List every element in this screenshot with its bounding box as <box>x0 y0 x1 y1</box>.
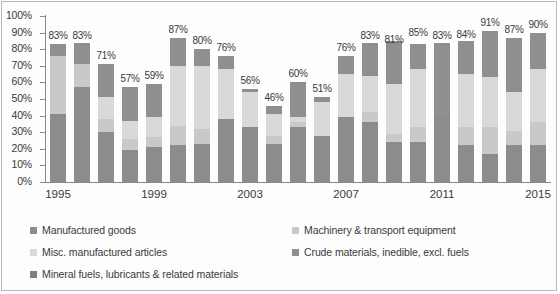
bar-segment[interactable] <box>122 139 138 151</box>
bar-stack[interactable] <box>50 44 66 182</box>
legend-item[interactable]: Crude materials, inedible, excl. fuels <box>292 246 469 258</box>
bar-segment[interactable] <box>482 77 498 127</box>
bar-segment[interactable] <box>194 144 210 182</box>
bar-segment[interactable] <box>338 117 354 182</box>
bar-segment[interactable] <box>362 112 378 122</box>
bar-stack[interactable] <box>242 89 258 182</box>
bar-segment[interactable] <box>362 76 378 113</box>
bar-stack[interactable] <box>386 41 402 182</box>
bar-stack[interactable] <box>410 44 426 182</box>
bar-segment[interactable] <box>170 38 186 66</box>
bar-segment[interactable] <box>506 92 522 130</box>
bar-stack[interactable] <box>122 87 138 182</box>
bar-stack[interactable] <box>170 38 186 182</box>
bar-segment[interactable] <box>50 44 66 56</box>
bar-segment[interactable] <box>458 41 474 74</box>
bar-stack[interactable] <box>506 38 522 182</box>
bar-segment[interactable] <box>50 114 66 182</box>
bar-segment[interactable] <box>338 74 354 117</box>
bar-segment[interactable] <box>266 114 282 136</box>
bar-segment[interactable] <box>482 154 498 182</box>
bar-stack[interactable] <box>338 56 354 182</box>
bar-stack[interactable] <box>218 56 234 182</box>
bar-segment[interactable] <box>194 49 210 66</box>
bar-segment[interactable] <box>242 127 258 182</box>
bar-segment[interactable] <box>482 127 498 154</box>
bar-segment[interactable] <box>458 127 474 145</box>
bar-segment[interactable] <box>146 147 162 182</box>
bar-segment[interactable] <box>194 129 210 144</box>
bar-segment[interactable] <box>98 64 114 97</box>
bar-segment[interactable] <box>266 106 282 114</box>
bar-segment[interactable] <box>194 66 210 129</box>
bar-segment[interactable] <box>434 117 450 182</box>
legend-item[interactable]: Mineral fuels, lubricants & related mate… <box>30 268 238 280</box>
bar-segment[interactable] <box>122 150 138 182</box>
bar-segment[interactable] <box>218 56 234 69</box>
bar-segment[interactable] <box>362 43 378 76</box>
bar-stack[interactable] <box>98 64 114 182</box>
bar-stack[interactable] <box>530 33 546 182</box>
bar-segment[interactable] <box>74 43 90 65</box>
bar-segment[interactable] <box>170 145 186 182</box>
bar-segment[interactable] <box>290 82 306 117</box>
bar-segment[interactable] <box>458 74 474 127</box>
bar-segment[interactable] <box>530 33 546 70</box>
bar-segment[interactable] <box>506 145 522 182</box>
bar-segment[interactable] <box>146 137 162 147</box>
bar-segment[interactable] <box>386 41 402 84</box>
bar-stack[interactable] <box>194 49 210 182</box>
bar-segment[interactable] <box>386 134 402 142</box>
bar-segment[interactable] <box>362 122 378 182</box>
bar-segment[interactable] <box>458 145 474 182</box>
bar-segment[interactable] <box>410 142 426 182</box>
bar-segment[interactable] <box>386 142 402 182</box>
bar-segment[interactable] <box>146 84 162 117</box>
bar-stack[interactable] <box>314 97 330 182</box>
bar-stack[interactable] <box>146 84 162 182</box>
bar-segment[interactable] <box>122 121 138 139</box>
bar-segment[interactable] <box>506 131 522 146</box>
bar-segment[interactable] <box>434 43 450 118</box>
bar-segment[interactable] <box>50 56 66 114</box>
bar-segment[interactable] <box>290 127 306 182</box>
plot-area <box>46 16 550 182</box>
bar-segment[interactable] <box>338 56 354 74</box>
bar-segment[interactable] <box>530 145 546 182</box>
bar-value-label: 85% <box>405 27 431 38</box>
bar-segment[interactable] <box>482 31 498 77</box>
legend-item[interactable]: Manufactured goods <box>30 224 136 236</box>
bar-stack[interactable] <box>458 41 474 182</box>
legend-item[interactable]: Machinery & transport equipment <box>292 224 456 236</box>
bar-stack[interactable] <box>434 43 450 182</box>
bar-segment[interactable] <box>410 69 426 127</box>
bar-stack[interactable] <box>482 31 498 182</box>
bar-stack[interactable] <box>362 43 378 182</box>
bar-segment[interactable] <box>530 69 546 122</box>
bar-segment[interactable] <box>266 136 282 144</box>
bar-segment[interactable] <box>242 92 258 127</box>
bar-segment[interactable] <box>506 38 522 93</box>
bar-stack[interactable] <box>290 82 306 182</box>
bar-segment[interactable] <box>266 144 282 182</box>
bar-stack[interactable] <box>74 43 90 182</box>
bar-segment[interactable] <box>98 119 114 132</box>
bar-segment[interactable] <box>170 126 186 146</box>
bar-segment[interactable] <box>74 64 90 87</box>
bar-segment[interactable] <box>146 117 162 137</box>
bar-segment[interactable] <box>74 87 90 182</box>
bar-segment[interactable] <box>410 127 426 142</box>
bar-segment[interactable] <box>218 69 234 119</box>
bar-stack[interactable] <box>266 106 282 182</box>
bar-segment[interactable] <box>98 97 114 119</box>
bar-segment[interactable] <box>122 87 138 120</box>
bar-segment[interactable] <box>530 122 546 145</box>
bar-segment[interactable] <box>314 136 330 182</box>
bar-segment[interactable] <box>170 66 186 126</box>
bar-segment[interactable] <box>314 102 330 135</box>
bar-segment[interactable] <box>410 44 426 69</box>
legend-item[interactable]: Misc. manufactured articles <box>30 246 167 258</box>
bar-segment[interactable] <box>386 84 402 134</box>
bar-segment[interactable] <box>218 119 234 182</box>
bar-segment[interactable] <box>98 132 114 182</box>
